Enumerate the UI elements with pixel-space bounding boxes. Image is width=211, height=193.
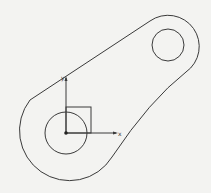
sketch-canvas: y x: [0, 0, 211, 193]
y-axis-label: y: [61, 74, 65, 82]
x-axis-label: x: [118, 130, 122, 137]
outer-profile: [20, 15, 200, 180]
upper-bore-circle: [152, 29, 184, 61]
right-angle-marker: [66, 107, 91, 133]
origin-point-icon: [64, 131, 68, 135]
